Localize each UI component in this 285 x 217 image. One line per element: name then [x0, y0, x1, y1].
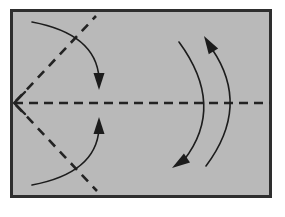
- wavefront-diagram: [0, 0, 285, 217]
- diagram-root: [0, 0, 285, 217]
